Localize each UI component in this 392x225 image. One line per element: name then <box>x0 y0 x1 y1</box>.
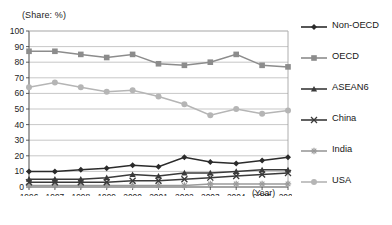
data-point-marker <box>52 168 58 174</box>
legend-label: USA <box>332 174 351 186</box>
data-point-marker <box>52 79 58 85</box>
plot-area: 0102030405060708090100199619971998199920… <box>0 26 292 196</box>
data-point-marker <box>26 48 32 54</box>
y-tick-label: 0 <box>19 182 24 192</box>
y-tick-label: 50 <box>14 104 24 114</box>
x-tick-label: 1998 <box>71 192 90 196</box>
chart-root: (Share: %) 01020304050607080901001996199… <box>0 0 392 225</box>
y-tick-label: 80 <box>14 57 24 67</box>
y-tick-label: 100 <box>10 26 25 36</box>
data-point-marker <box>130 162 136 168</box>
y-tick-label: 20 <box>14 151 24 161</box>
x-tick-label: 2006 <box>279 192 292 196</box>
data-point-marker <box>207 112 213 118</box>
x-tick-label: 1999 <box>97 192 116 196</box>
legend-label: ASEAN6 <box>332 81 369 93</box>
y-tick-label: 70 <box>14 73 24 83</box>
chart-legend: Non-OECDOECDASEAN6ChinaIndiaUSA <box>300 12 392 198</box>
data-point-marker <box>233 106 239 112</box>
data-point-marker <box>78 84 84 90</box>
circle-icon <box>300 174 328 186</box>
y-tick-label: 30 <box>14 135 24 145</box>
legend-item-usa[interactable]: USA <box>300 173 351 187</box>
y-tick-label: 60 <box>14 88 24 98</box>
series-usa <box>26 79 291 118</box>
data-point-marker <box>104 165 110 171</box>
data-point-marker <box>233 52 239 58</box>
x-tick-label: 2003 <box>201 192 220 196</box>
y-axis-unit-label: (Share: %) <box>22 10 66 20</box>
legend-label: China <box>332 112 356 124</box>
data-point-marker <box>207 159 213 165</box>
data-point-marker <box>285 108 291 114</box>
diamond-icon <box>300 19 328 31</box>
legend-label: OECD <box>332 50 359 62</box>
data-point-marker <box>156 94 162 100</box>
data-point-marker <box>181 182 187 188</box>
data-point-marker <box>207 181 213 187</box>
data-point-marker <box>130 87 136 93</box>
x-tick-label: 2001 <box>149 192 168 196</box>
x-tick-label: 2002 <box>175 192 194 196</box>
y-tick-label: 40 <box>14 120 24 130</box>
data-point-marker <box>104 89 110 95</box>
data-point-marker <box>311 179 317 185</box>
data-point-marker <box>259 181 265 187</box>
cross-x-icon <box>300 112 328 124</box>
data-point-marker <box>104 55 110 61</box>
data-point-marker <box>311 148 317 154</box>
y-tick-label: 90 <box>14 42 24 52</box>
x-tick-label: 1996 <box>20 192 39 196</box>
data-point-marker <box>208 59 214 65</box>
data-point-marker <box>181 101 187 107</box>
line-chart-svg: 0102030405060708090100199619971998199920… <box>0 26 292 196</box>
legend-item-asean6[interactable]: ASEAN6 <box>300 80 369 94</box>
legend-item-non-oecd[interactable]: Non-OECD <box>300 18 379 32</box>
legend-item-oecd[interactable]: OECD <box>300 49 359 63</box>
data-point-marker <box>26 84 32 90</box>
data-point-marker <box>285 154 291 160</box>
series-oecd <box>26 48 291 69</box>
data-point-marker <box>181 154 187 160</box>
data-point-marker <box>233 161 239 167</box>
data-point-marker <box>156 61 162 67</box>
x-axis-unit-label: (Year) <box>252 188 275 198</box>
legend-item-india[interactable]: India <box>300 142 352 156</box>
data-point-marker <box>26 168 32 174</box>
data-point-marker <box>130 52 136 58</box>
data-point-marker <box>182 63 188 69</box>
data-point-marker <box>78 52 84 58</box>
y-tick-label: 10 <box>14 166 24 176</box>
x-tick-label: 2000 <box>123 192 142 196</box>
data-point-marker <box>311 55 317 61</box>
data-point-marker <box>311 24 317 30</box>
data-point-marker <box>78 167 84 173</box>
asterisk-icon <box>300 143 328 155</box>
triangle-icon <box>300 81 328 93</box>
data-point-marker <box>259 63 265 69</box>
data-point-marker <box>52 48 58 54</box>
legend-label: India <box>332 143 352 155</box>
data-point-marker <box>233 181 239 187</box>
data-point-marker <box>285 64 291 70</box>
x-tick-label: 1997 <box>46 192 65 196</box>
data-point-marker <box>259 157 265 163</box>
square-icon <box>300 50 328 62</box>
legend-item-china[interactable]: China <box>300 111 356 125</box>
data-point-marker <box>259 111 265 117</box>
x-tick-label: 2004 <box>227 192 246 196</box>
data-point-marker <box>156 164 162 170</box>
legend-label: Non-OECD <box>332 19 379 31</box>
data-point-marker <box>285 181 291 187</box>
